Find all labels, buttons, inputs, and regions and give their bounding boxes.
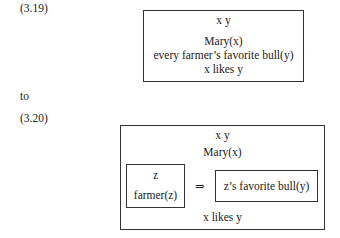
example-label-3-20: (3.20) bbox=[20, 112, 48, 124]
drs-condition: Mary(x) bbox=[144, 35, 303, 48]
connector-text: to bbox=[20, 90, 29, 102]
drs-universe: z bbox=[127, 169, 184, 182]
drs-condition: farmer(z) bbox=[127, 189, 184, 202]
drs-condition: x likes y bbox=[121, 211, 324, 224]
drs-condition: z’s favorite bull(y) bbox=[216, 180, 317, 193]
drs-condition: every farmer’s favorite bull(y) bbox=[144, 49, 303, 62]
drs-universe: x y bbox=[121, 129, 324, 142]
drs-condition: x likes y bbox=[144, 63, 303, 76]
drs-antecedent-box: z farmer(z) bbox=[126, 164, 185, 208]
drs-condition: Mary(x) bbox=[121, 146, 324, 159]
drs-universe: x y bbox=[144, 14, 303, 27]
drs-consequent-box: z’s favorite bull(y) bbox=[215, 170, 318, 202]
implication-arrow-icon: ⇒ bbox=[195, 179, 205, 193]
drs-box-3-20: x y Mary(x) z farmer(z) ⇒ z’s favorite b… bbox=[120, 125, 325, 230]
drs-box-3-19: x y Mary(x) every farmer’s favorite bull… bbox=[143, 10, 304, 82]
example-label-3-19: (3.19) bbox=[20, 2, 48, 14]
